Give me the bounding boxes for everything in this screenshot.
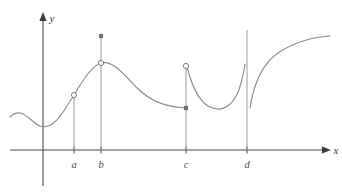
tick-label-b: b (98, 159, 103, 170)
curve-segment-after-d (250, 36, 330, 108)
marker-filled-dot-b (99, 34, 103, 38)
x-axis-arrow-icon (322, 146, 331, 153)
tick-label-c: c (184, 159, 189, 170)
tick-label-a: a (71, 159, 76, 170)
x-axis-label: x (333, 144, 339, 156)
marker-open-circle-c (183, 63, 188, 68)
graph-canvas: x y a b c d (0, 0, 342, 196)
axes-group (10, 12, 331, 186)
marker-open-circle-b (98, 60, 103, 65)
curve-segment-b-to-c (101, 63, 186, 108)
droplines-group (74, 30, 247, 150)
y-axis-arrow-icon (39, 12, 46, 21)
function-graph-figure: x y a b c d (0, 0, 342, 196)
marker-filled-dot-c (184, 106, 188, 110)
marker-open-circle-a (71, 92, 76, 97)
curve-segment-left-branch (10, 63, 101, 127)
curve-segment-c-to-d (187, 64, 245, 109)
function-curve-group (10, 36, 330, 127)
tick-label-d: d (244, 159, 250, 170)
y-axis-label: y (49, 12, 55, 24)
